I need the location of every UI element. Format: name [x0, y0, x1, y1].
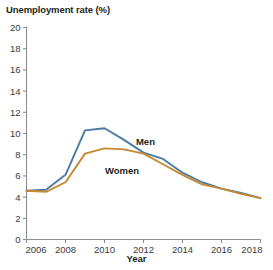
y-tick-label: 20 — [10, 22, 21, 33]
y-tick-label: 8 — [15, 149, 20, 160]
y-axis-tick-group: 02468101214161820 — [10, 22, 27, 245]
y-tick-label: 16 — [10, 64, 21, 75]
y-tick-label: 18 — [10, 43, 21, 54]
chart-figure: Unemployment rate (%) 02468101214161820 … — [0, 0, 273, 270]
x-axis-title: Year — [0, 253, 273, 264]
y-tick-label: 14 — [10, 86, 21, 97]
y-tick-label: 10 — [10, 128, 21, 139]
y-tick-label: 4 — [15, 192, 20, 203]
y-tick-label: 0 — [15, 234, 20, 245]
y-tick-label: 6 — [15, 170, 20, 181]
line-chart-plot-area: 02468101214161820 2006200820102012201420… — [0, 0, 273, 270]
series-label-women: Women — [105, 165, 139, 176]
series-line-women — [27, 148, 261, 198]
y-tick-label: 2 — [15, 213, 20, 224]
y-tick-label: 12 — [10, 107, 21, 118]
series-label-men: Men — [136, 136, 155, 147]
